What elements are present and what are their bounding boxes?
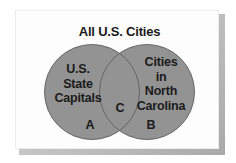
- universe-title: All U.S. Cities: [15, 24, 224, 39]
- set-label-left: U.S. State Capitals: [48, 62, 108, 106]
- set-label-line: Capitals: [48, 91, 108, 106]
- set-label-line: Carolina: [130, 99, 192, 114]
- set-label-right: Cities in North Carolina: [130, 55, 192, 113]
- region-c-label: C: [110, 101, 130, 115]
- set-label-line: in: [130, 70, 192, 85]
- region-a-label: A: [80, 118, 100, 132]
- set-label-line: U.S.: [48, 62, 108, 77]
- set-label-line: State: [48, 77, 108, 92]
- set-label-line: North: [130, 84, 192, 99]
- set-label-line: Cities: [130, 55, 192, 70]
- region-b-label: B: [141, 118, 161, 132]
